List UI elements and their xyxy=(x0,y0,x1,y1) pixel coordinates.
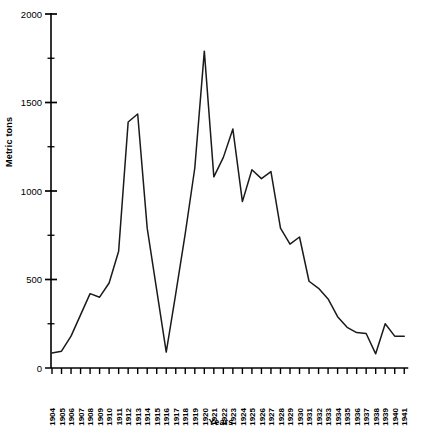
y-axis-title: Metric tons xyxy=(4,153,14,167)
line-chart: 0500100015002000 19041905190619071908190… xyxy=(0,0,442,433)
chart-plot-area: 0500100015002000 19041905190619071908190… xyxy=(0,0,442,433)
y-tick-label: 1500 xyxy=(21,97,42,108)
x-axis-title: Years xyxy=(0,417,442,427)
y-tick-label: 0 xyxy=(37,363,42,374)
y-axis: 0500100015002000 xyxy=(21,9,57,374)
x-axis-title-text: Years xyxy=(208,417,233,427)
y-tick-label: 2000 xyxy=(21,9,42,20)
data-series-line xyxy=(52,51,404,354)
y-tick-label: 1000 xyxy=(21,186,42,197)
y-tick-label: 500 xyxy=(26,274,42,285)
y-axis-title-text: Metric tons xyxy=(4,117,14,167)
series-line-metric-tons xyxy=(52,51,404,354)
